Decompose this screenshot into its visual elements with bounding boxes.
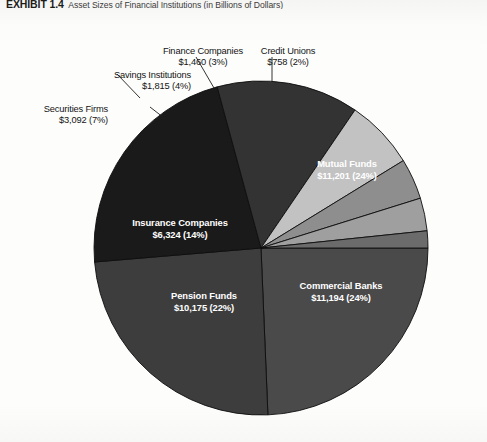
slice-label-insurance-companies: Insurance Companies $6,324 (14%) — [96, 217, 264, 241]
slice-label-pension-funds: Pension Funds $10,175 (22%) — [133, 290, 275, 314]
pie-chart: Securities Firms $3,092 (7%) Savings Ins… — [0, 14, 487, 434]
pie-slice — [261, 248, 428, 415]
exhibit-number: EXHIBIT 1.4 — [6, 0, 64, 9]
slice-label-securities-firms: Securities Firms $3,092 (7%) — [44, 104, 108, 127]
exhibit-title: Asset Sizes of Financial Institutions (i… — [68, 0, 283, 9]
pie-slice — [95, 248, 268, 415]
slice-label-mutual-funds: Mutual Funds $11,201 (24%) — [282, 158, 412, 182]
slice-label-commercial-banks: Commercial Banks $11,194 (24%) — [268, 280, 414, 304]
exhibit-header: EXHIBIT 1.4 Asset Sizes of Financial Ins… — [6, 0, 476, 9]
slice-label-savings-institutions: Savings Institutions $1,815 (4%) — [114, 70, 191, 93]
exhibit-figure: EXHIBIT 1.4 Asset Sizes of Financial Ins… — [0, 0, 487, 442]
slice-label-credit-unions: Credit Unions $758 (2%) — [243, 46, 333, 69]
pie-slices-group — [94, 81, 428, 415]
